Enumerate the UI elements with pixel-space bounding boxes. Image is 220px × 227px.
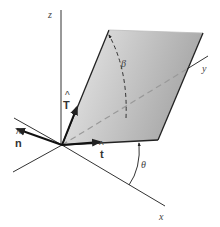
fault-plane [62,30,203,145]
x-axis-label: x [158,211,164,222]
n-vector [17,129,62,145]
theta-arc [129,143,139,185]
x-axis [62,145,165,206]
y-axis-label: y [201,63,207,74]
y-axis-negative [13,145,62,172]
theta-label: θ [141,159,146,170]
diagram-canvas: z y x ^ n ^ t ^ T β θ [0,0,220,227]
t-vector-label: t [100,148,104,160]
z-axis-label: z [47,9,52,20]
beta-label: β [120,58,126,69]
T-vector-label: T [63,99,70,111]
n-vector-label: n [15,137,22,149]
